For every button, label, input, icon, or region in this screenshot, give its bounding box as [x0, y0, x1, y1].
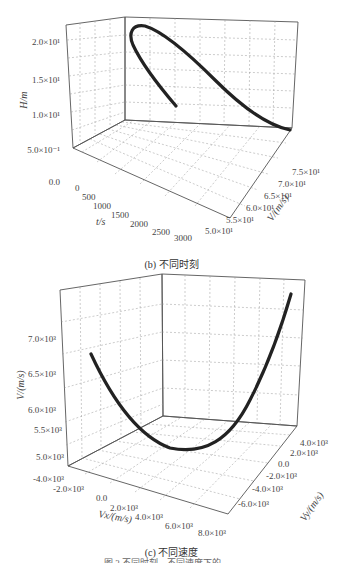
- x-tick-c-2: 0.0: [96, 493, 108, 503]
- y-tick-b-1: 5.5×10¹: [226, 215, 254, 225]
- z-axis-label-c: V/(m/s): [15, 370, 27, 400]
- y-axis-label-c: Vy/(m/s): [298, 489, 327, 523]
- plot-c: 7.0×10³ 6.5×10³ 6.0×10³ 5.5×10³ 5.0×10³ …: [0, 270, 343, 563]
- z-tick-c-3: 5.5×10³: [34, 425, 62, 435]
- x-tick-c-6: 8.0×10³: [198, 528, 226, 538]
- x-tick-b-4: 2000: [130, 219, 149, 229]
- z-tick-c-4: 5.0×10³: [36, 452, 64, 462]
- figure-b: 2.0×10¹ 1.5×10¹ 1.0×10¹ 5.0×10⁻¹ 0.0 H/m…: [0, 0, 343, 270]
- x-tick-b-2: 1000: [93, 201, 112, 211]
- figure-c: 7.0×10³ 6.5×10³ 6.0×10³ 5.5×10³ 5.0×10³ …: [0, 270, 343, 563]
- y-tick-c-5: -6.0×10³: [238, 499, 269, 509]
- z-tick-c-0: 7.0×10³: [28, 334, 56, 344]
- x-tick-b-0: 0: [75, 183, 80, 193]
- z-tick-b-4: 0.0: [49, 177, 61, 187]
- y-tick-b-4: 7.0×10¹: [278, 179, 306, 189]
- y-tick-c-4: -4.0×10³: [252, 484, 283, 494]
- x-tick-c-5: 6.0×10³: [165, 521, 193, 531]
- x-tick-c-4: 4.0×10³: [135, 512, 163, 522]
- x-tick-c-1: -2.0×10³: [53, 484, 84, 494]
- y-tick-b-0: 5.0×10¹: [205, 226, 233, 236]
- plot-b: 2.0×10¹ 1.5×10¹ 1.0×10¹ 5.0×10⁻¹ 0.0 H/m…: [0, 0, 343, 270]
- y-tick-c-2: 0.0: [278, 459, 290, 469]
- x-tick-b-3: 1500: [111, 210, 130, 220]
- z-tick-b-3: 5.0×10⁻¹: [27, 145, 60, 155]
- z-tick-b-2: 1.0×10¹: [32, 110, 60, 120]
- z-tick-b-0: 2.0×10¹: [32, 37, 60, 47]
- caption-b: (b) 不同时刻: [0, 256, 343, 271]
- z-tick-b-1: 1.5×10¹: [32, 75, 60, 85]
- trajectory-curve-b: [131, 26, 290, 130]
- y-tick-b-5: 7.5×10¹: [292, 167, 320, 177]
- z-tick-c-1: 6.5×10³: [28, 369, 56, 379]
- x-tick-c-0: -4.0×10³: [33, 474, 64, 484]
- truncated-body-text: 图 3 不同时刻、不同速度下的……: [0, 556, 343, 563]
- y-tick-c-0: 4.0×10³: [300, 438, 328, 448]
- y-tick-c-1: 2.0×10³: [290, 448, 318, 458]
- z-tick-c-2: 6.0×10³: [28, 405, 56, 415]
- y-tick-c-3: -2.0×10³: [266, 471, 297, 481]
- z-axis-label-b: H/m: [18, 91, 29, 109]
- x-tick-b-6: 3000: [174, 233, 193, 243]
- x-axis-label-b: t/s: [96, 216, 106, 227]
- x-tick-b-5: 2500: [152, 227, 171, 237]
